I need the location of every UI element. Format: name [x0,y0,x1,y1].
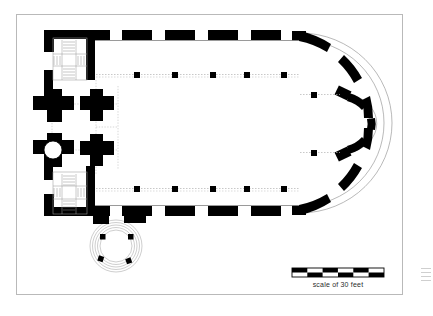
west-facade [44,30,95,216]
north-wall [88,30,306,41]
circular-chapel [90,216,146,272]
edge-mark [421,280,431,281]
page-edge-marks [421,268,431,298]
edge-mark [421,276,431,277]
scale-bar-caption: scale of 30 feet [288,281,388,288]
northwest-stair-tower [53,38,87,80]
plan-page: scale of 30 feet [0,0,433,316]
edge-mark [421,272,431,273]
north-arcade [96,72,340,98]
south-wall [88,205,306,216]
scale-bar [292,268,384,277]
floor-plan-drawing [0,0,433,316]
edge-mark [421,268,431,269]
south-arcade [96,150,340,192]
